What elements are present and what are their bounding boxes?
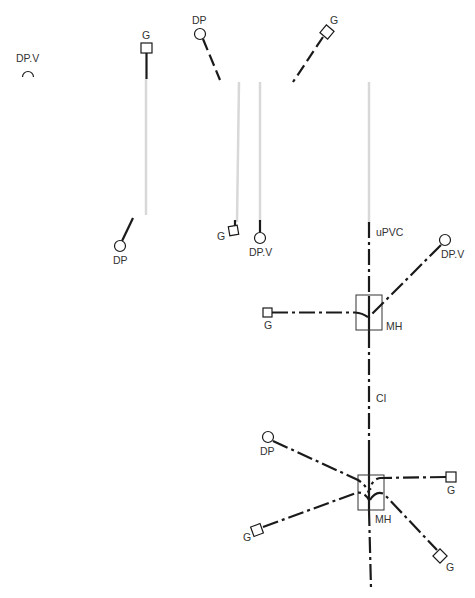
manhole-2: MH	[358, 475, 391, 525]
mh1-label: MH	[386, 320, 402, 332]
gully-square-icon	[263, 308, 272, 317]
dp-lower-left-node: DP	[113, 218, 133, 266]
gully-square-icon	[228, 225, 238, 235]
g-mid-label: G	[217, 230, 225, 242]
g-mh2-left-node: G	[243, 493, 369, 543]
dp-circle-icon	[263, 432, 274, 443]
gully-square-icon	[251, 524, 264, 537]
dpv-isolated-label: DP.V	[16, 52, 39, 64]
ci-label: CI	[376, 392, 387, 404]
dpv-right-node: DP.V	[369, 235, 464, 318]
dp-top-label: DP	[192, 14, 207, 26]
drainage-diagram: DP.V G DP G DP G DP.V uP	[0, 0, 475, 598]
g-mid-node: G	[217, 220, 239, 242]
g-mh2-left-label: G	[243, 531, 251, 543]
g-mh1-label: G	[264, 319, 272, 331]
dpv-right-label: DP.V	[441, 248, 464, 260]
dp-top-node: DP	[192, 14, 220, 80]
gully-square-icon	[433, 549, 447, 563]
g-top-right-label: G	[330, 14, 338, 26]
dp-circle-icon	[115, 241, 126, 252]
dp-lower-left-label: DP	[113, 254, 128, 266]
gully-square-icon	[141, 43, 152, 53]
dpv-mid-label: DP.V	[249, 246, 272, 258]
g-top-left-node: G	[141, 29, 152, 215]
dp-circle-icon	[23, 72, 34, 78]
mh2-label: MH	[375, 513, 391, 525]
dp-mh2-label: DP	[260, 445, 275, 457]
g-mh2-right-label: G	[447, 484, 455, 496]
g-top-right-node: G	[293, 14, 338, 82]
g-mh1-node: G	[263, 308, 369, 331]
dpv-isolated-node: DP.V	[16, 52, 39, 77]
dp-circle-icon	[440, 235, 451, 246]
g-top-left-label: G	[142, 29, 150, 41]
dp-mh2-node: DP	[260, 432, 369, 494]
dp-circle-icon	[255, 233, 266, 244]
g-mh2-bottom-label: G	[446, 561, 454, 573]
dp-circle-icon	[195, 29, 206, 40]
dpv-mid-node: DP.V	[249, 220, 272, 258]
g-mh2-bottom-node: G	[370, 493, 454, 573]
upvc-label: uPVC	[376, 226, 404, 238]
gully-square-icon	[446, 472, 456, 482]
